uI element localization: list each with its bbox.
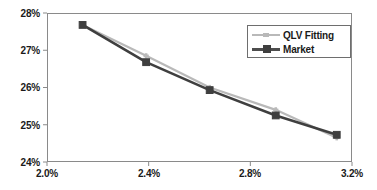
legend-item-market: Market	[252, 42, 346, 56]
legend-swatch-market-icon	[252, 43, 280, 55]
chart-container: 28% 27% 26% 25% 24% 2.0% 2.4% 2.8% 3.2% …	[0, 0, 377, 190]
legend-label-market: Market	[283, 44, 314, 55]
legend-item-qlv-fitting: QLV Fitting	[252, 28, 346, 42]
legend: QLV Fitting Market	[247, 25, 351, 58]
legend-swatch-qlv-icon	[252, 29, 280, 41]
legend-label-qlv-fitting: QLV Fitting	[283, 30, 334, 41]
